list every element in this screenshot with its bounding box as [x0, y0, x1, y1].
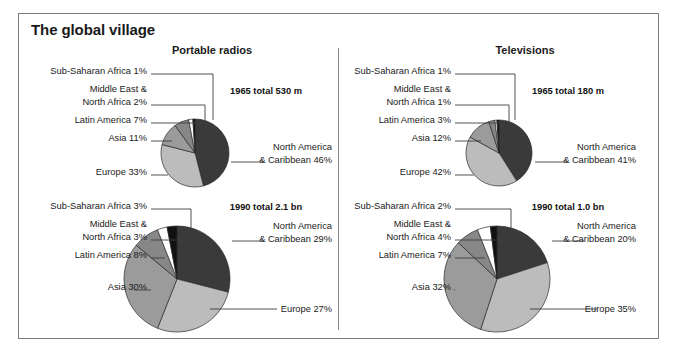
slice-label: Europe 27% [281, 304, 332, 314]
slice-label: Middle East &North Africa 3% [82, 219, 147, 242]
leader-line [151, 74, 213, 120]
slice-label: Latin America 7% [379, 250, 451, 260]
slice-label: Asia 30% [108, 282, 147, 292]
slice-label: Sub-Saharan Africa 3% [50, 201, 147, 211]
slice-label: North America& Caribbean 29% [259, 221, 333, 244]
pie-charts-layer: 1965 total 530 mSub-Saharan Africa 1%Mid… [19, 14, 660, 340]
slice-label: Asia 32% [412, 282, 451, 292]
slice-label: Asia 11% [108, 133, 147, 143]
slice-label: Middle East &North Africa 4% [386, 219, 451, 242]
slice-label: Latin America 3% [379, 115, 451, 125]
slice-label: North America& Caribbean 46% [259, 142, 333, 165]
slice-label: Middle East &North Africa 1% [386, 84, 451, 107]
slice-label: Europe 42% [400, 167, 451, 177]
slice-label: Latin America 7% [75, 115, 147, 125]
slice-label: Asia 12% [412, 133, 451, 143]
figure-panel: The global village Portable radios Telev… [18, 13, 659, 339]
pie-chart-tvs-1990: 1990 total 1.0 bnSub-Saharan Africa 2%Mi… [354, 201, 636, 332]
total-annotation-tvs-1965: 1965 total 180 m [532, 86, 604, 96]
pie-chart-radios-1990: 1990 total 2.1 bnSub-Saharan Africa 3%Mi… [50, 201, 332, 332]
pie-chart-radios-1965: 1965 total 530 mSub-Saharan Africa 1%Mid… [50, 66, 332, 187]
slice-label: Sub-Saharan Africa 2% [354, 201, 451, 211]
pie-chart-tvs-1965: 1965 total 180 mSub-Saharan Africa 1%Mid… [354, 66, 636, 186]
slice-label: Middle East &North Africa 2% [82, 84, 147, 107]
total-annotation-radios-1990: 1990 total 2.1 bn [230, 202, 303, 212]
leader-line [455, 105, 509, 122]
total-annotation-tvs-1990: 1990 total 1.0 bn [532, 202, 605, 212]
slice-label: Sub-Saharan Africa 1% [354, 66, 451, 76]
slice-label: Europe 33% [96, 167, 147, 177]
total-annotation-radios-1965: 1965 total 530 m [230, 86, 302, 96]
slice-label: North America& Caribbean 41% [563, 142, 637, 165]
leader-line [455, 74, 515, 120]
slice-label: Sub-Saharan Africa 1% [50, 66, 147, 76]
slice-label: Latin America 8% [75, 250, 147, 260]
